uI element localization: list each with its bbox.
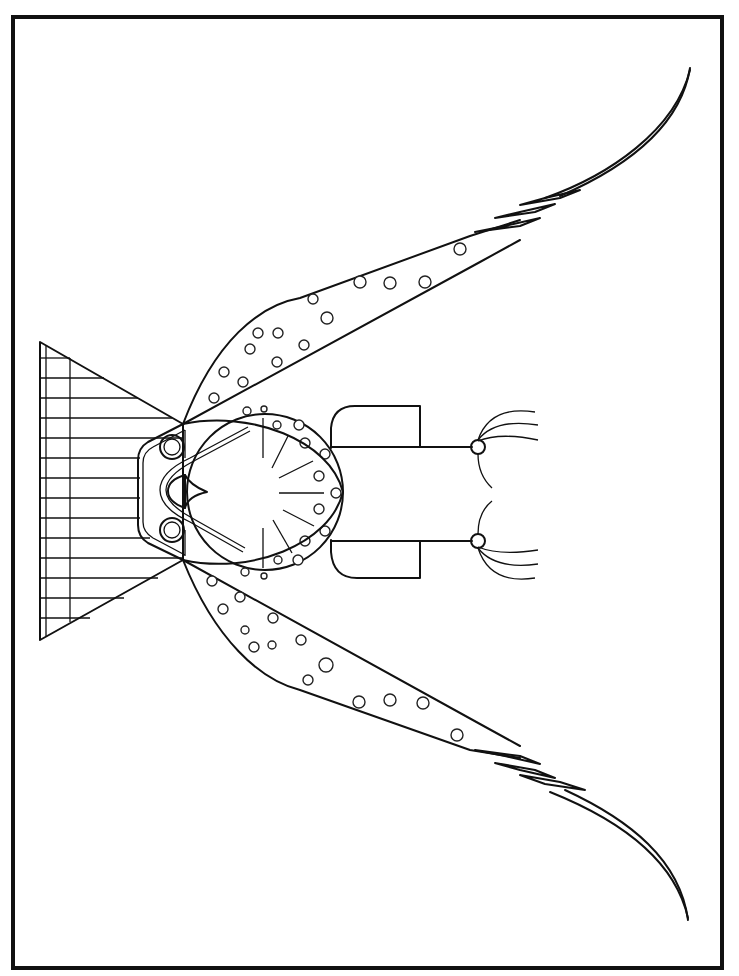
lower-wing (183, 560, 688, 920)
upper-wing (183, 68, 690, 424)
tail-fan (40, 342, 183, 640)
body-disc (187, 406, 343, 579)
head (138, 421, 343, 564)
eye-upper (160, 435, 184, 459)
eye-lower (160, 518, 184, 542)
owl-coloring-page (0, 0, 739, 976)
leg-lower (331, 501, 538, 579)
leg-upper (331, 406, 538, 488)
